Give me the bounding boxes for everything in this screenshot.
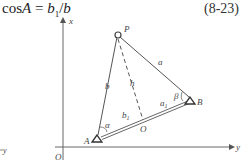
label-segment-a1: a1 (160, 98, 168, 109)
label-segment-b1: b1 (122, 110, 130, 121)
baseline-ab-inner (102, 104, 189, 140)
origin-label: O (55, 152, 62, 162)
segment-a (120, 37, 189, 97)
label-b: B (197, 97, 203, 107)
label-beta: β (173, 91, 179, 101)
point-b-triangle (185, 97, 195, 104)
label-segment-b: b (105, 81, 110, 91)
label-o: O (140, 124, 147, 134)
point-a-triangle (92, 135, 102, 142)
point-p (115, 32, 121, 38)
label-segment-h: h (130, 78, 135, 88)
label-a: A (83, 136, 90, 146)
angle-beta-arc (181, 92, 183, 101)
geometry-diagram: x y O y P A B O b a h a1 b1 α β (0, 0, 245, 168)
label-p: P (123, 24, 130, 34)
label-alpha: α (105, 120, 110, 130)
left-fragment-label: y (2, 146, 7, 155)
x-axis-label: x (68, 16, 73, 26)
label-segment-a: a (158, 57, 163, 67)
y-axis-label: y (235, 142, 240, 152)
